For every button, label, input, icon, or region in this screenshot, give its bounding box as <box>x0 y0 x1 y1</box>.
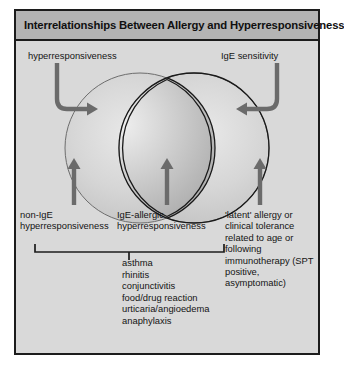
list-item: asthma <box>122 257 210 269</box>
conditions-list: asthma rhinitis conjunctivitis food/drug… <box>122 257 210 327</box>
figure-title-bar: Interrelationships Between Allergy and H… <box>16 11 318 41</box>
label-latent-allergy: 'latent' allergy or clinical tolerance r… <box>225 209 317 289</box>
label-hyperresponsiveness: hyperresponsiveness <box>28 50 117 61</box>
list-item: conjunctivitis <box>122 280 210 292</box>
figure-panel: Interrelationships Between Allergy and H… <box>14 9 320 355</box>
list-item: food/drug reaction <box>122 292 210 304</box>
page-title: Interrelationships Between Allergy and H… <box>16 19 344 31</box>
list-item: rhinitis <box>122 269 210 281</box>
list-item: anaphylaxis <box>122 315 210 327</box>
diagram-canvas: hyperresponsiveness IgE sensitivity non-… <box>16 41 318 355</box>
label-ige-sensitivity: IgE sensitivity <box>221 50 278 61</box>
list-item: urticaria/angioedema <box>122 303 210 315</box>
label-non-ige-hyperresponsiveness: non-IgE hyperresponsiveness <box>20 209 109 232</box>
label-ige-allergic-hyperresponsiveness: IgE-allergic hyperresponsiveness <box>117 209 206 232</box>
